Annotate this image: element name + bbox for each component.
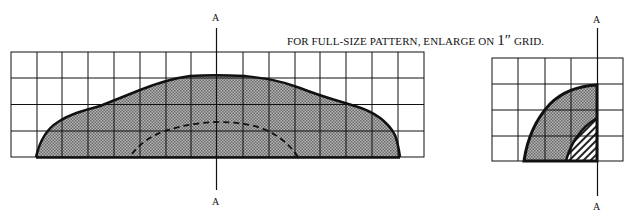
large-axis-label-bottom: A (212, 196, 219, 207)
enlarge-caption: FOR FULL-SIZE PATTERN, ENLARGE ON 1″ GRI… (287, 32, 544, 49)
small-pattern (492, 28, 623, 196)
caption-text-before: FOR FULL-SIZE PATTERN, ENLARGE ON (287, 35, 497, 47)
caption-text-after: GRID. (511, 35, 544, 47)
small-axis-label-bottom: A (593, 201, 600, 212)
large-axis-label-top: A (212, 12, 219, 23)
large-pattern (11, 28, 424, 190)
large-pattern-shape (36, 75, 400, 157)
caption-size: 1″ (497, 32, 511, 48)
small-axis-label-top: A (593, 14, 600, 25)
